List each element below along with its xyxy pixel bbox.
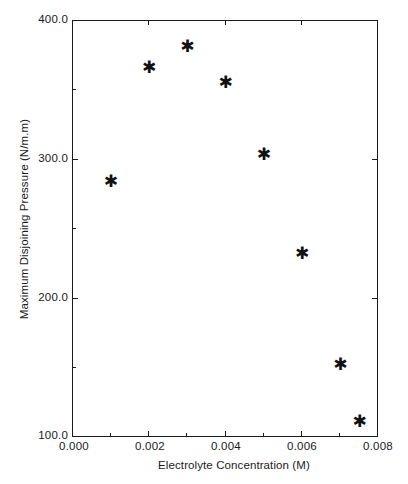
chart-page: 400.0 300.0 200.0 100.0 0.000 0.002 0.00… [0,0,408,484]
y-tick-label-400: 400.0 [6,13,68,25]
data-point-marker: ✱ [104,175,117,188]
y-tick-mark-right-200 [372,298,378,299]
data-point-marker: ✱ [333,358,346,371]
x-tick-mark-0008 [377,431,378,437]
x-tick-minor-0001 [110,433,111,437]
x-tick-mark-0006 [301,431,302,437]
x-axis-title: Electrolyte Concentration (M) [0,459,408,471]
y-tick-mark-right-300 [372,159,378,160]
x-tick-top-0002 [148,20,149,25]
data-point-marker: ✱ [142,61,155,74]
x-tick-minor-0005 [263,433,264,437]
y-tick-minor-250 [72,228,76,229]
x-tick-label-0008: 0.008 [348,440,408,452]
y-tick-mark-300 [72,159,78,160]
x-tick-label-0004: 0.004 [196,440,256,452]
x-tick-label-0000: 0.000 [44,440,104,452]
x-tick-top-0006 [301,20,302,25]
x-tick-minor-0003 [186,433,187,437]
y-tick-minor-350 [72,89,76,90]
data-point-marker: ✱ [295,247,308,260]
x-tick-label-0002: 0.002 [120,440,180,452]
x-tick-minor-0007 [339,433,340,437]
y-tick-mark-400 [72,20,78,21]
y-tick-label-200: 200.0 [6,291,68,303]
y-tick-label-300: 300.0 [6,152,68,164]
x-tick-mark-0000 [72,431,73,437]
y-tick-mark-200 [72,298,78,299]
data-point-marker: ✱ [257,148,270,161]
y-tick-minor-150 [72,367,76,368]
x-tick-mark-0004 [225,431,226,437]
x-tick-mark-0002 [148,431,149,437]
x-tick-top-0004 [225,20,226,25]
x-tick-label-0006: 0.006 [272,440,332,452]
data-point-marker: ✱ [180,40,193,53]
data-point-marker: ✱ [352,415,365,428]
data-point-marker: ✱ [219,76,232,89]
y-axis-title: Maximum Disjoining Pressure (N/m.m) [18,9,30,429]
